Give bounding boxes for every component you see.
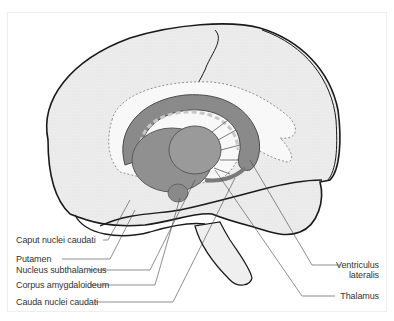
thalamus — [169, 126, 221, 174]
label-putamen: Putamen — [16, 254, 51, 264]
label-ventriculus-lateralis: Ventriculus lateralis — [336, 260, 379, 280]
brainstem — [195, 222, 252, 285]
label-ventriculus-line2: lateralis — [336, 270, 379, 280]
label-cauda-nuclei-caudati: Cauda nuclei caudati — [16, 297, 98, 307]
label-corpus-amygdaloideum: Corpus amygdaloideum — [16, 280, 109, 290]
label-caput-nuclei-caudati: Caput nuclei caudati — [16, 235, 96, 245]
amygdala — [168, 184, 188, 202]
label-thalamus: Thalamus — [340, 291, 379, 301]
label-nucleus-subthalamicus: Nucleus subthalamicus — [16, 265, 106, 275]
label-ventriculus-line1: Ventriculus — [336, 260, 379, 270]
